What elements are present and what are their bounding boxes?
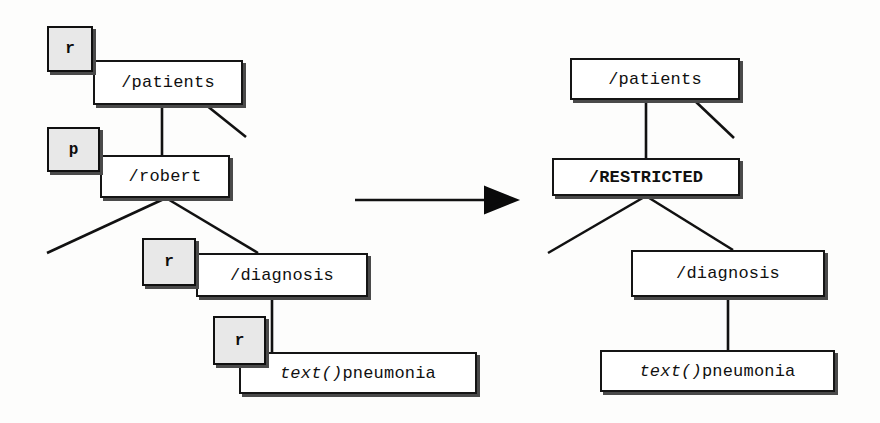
badge-label: r [235, 332, 245, 350]
badge-label: p [69, 141, 79, 159]
badge-label: r [164, 253, 174, 271]
node-text-pneumonia-original[interactable]: text()pneumonia [239, 352, 477, 394]
badge-read-diagnosis[interactable]: r [142, 238, 196, 286]
node-robert-original[interactable]: /robert [100, 155, 230, 198]
edge-r-patients-elided [694, 100, 734, 138]
node-label: /diagnosis [230, 266, 334, 285]
badge-read-patients[interactable]: r [47, 26, 93, 72]
node-label-value: pneumonia [702, 362, 796, 381]
diagram-canvas: /patients /robert /diagnosis text()pneum… [0, 0, 880, 423]
node-patients-transformed[interactable]: /patients [570, 58, 740, 100]
node-label-function: text() [639, 362, 701, 381]
node-patients-original[interactable]: /patients [93, 60, 243, 105]
node-diagnosis-transformed[interactable]: /diagnosis [631, 250, 825, 297]
node-label: /diagnosis [676, 264, 780, 283]
badge-label: r [65, 40, 75, 58]
badge-read-text[interactable]: r [213, 316, 266, 365]
transformation-arrow [355, 190, 512, 210]
node-label-function: text() [280, 364, 342, 383]
node-label: /robert [129, 167, 202, 186]
node-restricted-transformed[interactable]: /RESTRICTED [552, 158, 740, 196]
node-diagnosis-original[interactable]: /diagnosis [196, 253, 368, 297]
badge-protect-robert[interactable]: p [47, 127, 100, 172]
node-text-pneumonia-transformed[interactable]: text()pneumonia [600, 350, 835, 392]
edge-patients-elided [206, 105, 246, 137]
edge-restricted-elided [548, 196, 646, 253]
node-label: /RESTRICTED [589, 168, 703, 187]
node-label: /patients [121, 73, 215, 92]
node-label-value: pneumonia [342, 364, 436, 383]
edge-restricted-diagnosis [646, 196, 733, 250]
node-label: /patients [608, 70, 702, 89]
